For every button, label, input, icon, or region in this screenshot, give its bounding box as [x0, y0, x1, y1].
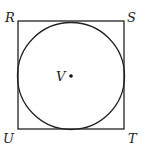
center-label-v: V [56, 69, 67, 84]
vertex-label-t: T [128, 131, 138, 146]
vertex-label-u: U [3, 131, 15, 146]
vertex-label-s: S [127, 10, 136, 25]
vertex-label-r: R [4, 10, 15, 25]
center-point-v [69, 74, 73, 78]
inscribed-circle-diagram: R S U T V [0, 0, 145, 151]
